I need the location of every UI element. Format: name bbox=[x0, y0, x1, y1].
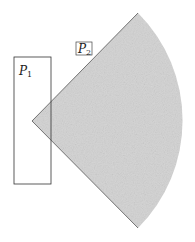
label-p1: P1 bbox=[18, 64, 32, 79]
label-p2: P2 bbox=[76, 42, 92, 57]
sector-p2 bbox=[32, 13, 183, 228]
diagram-canvas: P1 P2 bbox=[0, 0, 195, 242]
